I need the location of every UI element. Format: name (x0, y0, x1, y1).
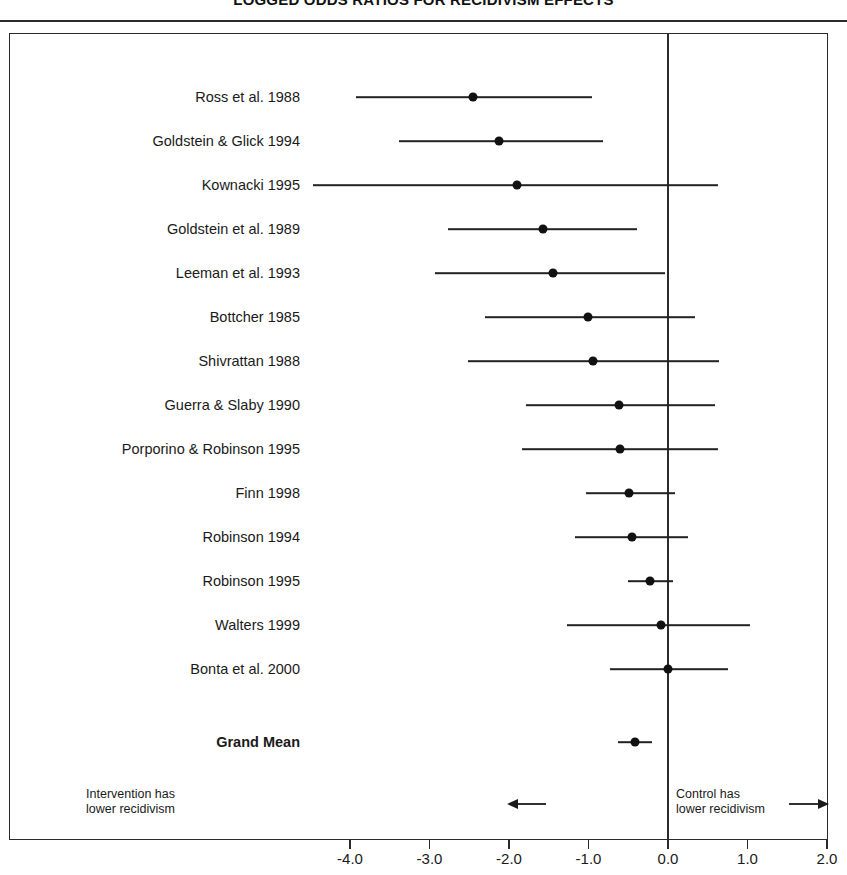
point-estimate-marker (548, 269, 557, 278)
x-axis-tick-label: -4.0 (337, 851, 363, 866)
point-estimate-marker (469, 93, 478, 102)
annotation-intervention: Intervention has lower recidivism (86, 787, 175, 818)
x-axis-tick-label: -3.0 (417, 851, 443, 866)
study-row-label: Porporino & Robinson 1995 (0, 442, 300, 457)
plot-frame (9, 33, 828, 840)
x-axis-tick (747, 840, 748, 849)
study-row-label: Guerra & Slaby 1990 (0, 398, 300, 413)
point-estimate-marker (645, 577, 654, 586)
study-row-label: Robinson 1994 (0, 530, 300, 545)
point-estimate-marker (656, 621, 665, 630)
point-estimate-marker (628, 533, 637, 542)
x-axis-tick (508, 840, 509, 849)
x-axis-tick-label: -1.0 (576, 851, 602, 866)
study-row-label: Bonta et al. 2000 (0, 662, 300, 677)
study-row-label: Leeman et al. 1993 (0, 266, 300, 281)
x-axis-tick (826, 840, 827, 849)
point-estimate-marker (625, 489, 634, 498)
point-estimate-marker (495, 137, 504, 146)
study-row-label: Ross et al. 1988 (0, 90, 300, 105)
x-axis-tick-label: 0.0 (658, 851, 679, 866)
point-estimate-marker (583, 313, 592, 322)
annotation-control: Control has lower recidivism (676, 787, 765, 818)
summary-point-marker (631, 738, 640, 747)
annotation-control-line1: Control has (676, 787, 765, 802)
x-axis-tick (349, 840, 350, 849)
left-arrow-icon (507, 797, 547, 811)
summary-row-label: Grand Mean (0, 735, 300, 750)
page-title: LOGGED ODDS RATIOS FOR RECIDIVISM EFFECT… (0, 0, 847, 8)
study-row-label: Walters 1999 (0, 618, 300, 633)
point-estimate-marker (664, 665, 673, 674)
x-axis-tick (588, 840, 589, 849)
x-axis-tick-label: -2.0 (496, 851, 522, 866)
x-axis-tick (667, 840, 668, 849)
zero-reference-line (667, 33, 669, 840)
x-axis-tick-label: 2.0 (817, 851, 838, 866)
study-row-label: Goldstein & Glick 1994 (0, 134, 300, 149)
study-row-label: Robinson 1995 (0, 574, 300, 589)
study-row-label: Finn 1998 (0, 486, 300, 501)
title-divider (0, 20, 847, 22)
point-estimate-marker (539, 225, 548, 234)
x-axis-tick (429, 840, 430, 849)
study-row-label: Kownacki 1995 (0, 178, 300, 193)
point-estimate-marker (512, 181, 521, 190)
annotation-intervention-line1: Intervention has (86, 787, 175, 802)
point-estimate-marker (589, 357, 598, 366)
x-axis-tick-label: 1.0 (737, 851, 758, 866)
point-estimate-marker (616, 445, 625, 454)
point-estimate-marker (614, 401, 623, 410)
study-row-label: Goldstein et al. 1989 (0, 222, 300, 237)
study-row-label: Shivrattan 1988 (0, 354, 300, 369)
annotation-intervention-line2: lower recidivism (86, 802, 175, 817)
right-arrow-icon (789, 797, 829, 811)
study-row-label: Bottcher 1985 (0, 310, 300, 325)
annotation-control-line2: lower recidivism (676, 802, 765, 817)
